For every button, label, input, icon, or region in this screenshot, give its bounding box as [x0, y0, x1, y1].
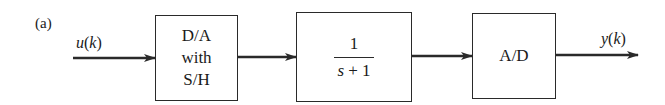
dac-line-3: S/H [181, 69, 211, 91]
tf-denominator: s + 1 [337, 58, 370, 81]
transfer-function: 1 s + 1 [334, 34, 374, 81]
dac-line-1: D/A [181, 25, 211, 47]
dac-block: D/A with S/H [155, 15, 238, 101]
input-signal-label: u(k) [76, 34, 102, 52]
panel-label: (a) [35, 15, 52, 32]
adc-label: A/D [499, 46, 528, 66]
input-signal-arg: k [89, 34, 96, 51]
input-signal-name: u [76, 34, 84, 51]
adc-block: A/D [472, 13, 556, 99]
output-signal-arg: k [613, 30, 620, 47]
tf-denominator-rest: + 1 [344, 61, 371, 80]
plant-transfer-function-block: 1 s + 1 [296, 12, 412, 102]
tf-numerator: 1 [350, 34, 359, 57]
output-signal-label: y(k) [601, 30, 626, 48]
output-signal-name: y [601, 30, 608, 47]
block-diagram: (a) u(k) D/A with S/H 1 s + 1 A/D y(k) [0, 0, 665, 105]
dac-line-2: with [181, 47, 211, 69]
